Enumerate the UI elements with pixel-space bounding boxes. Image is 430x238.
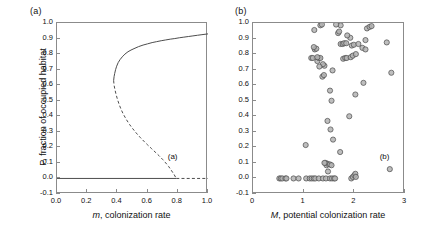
scatter-point (325, 118, 330, 123)
scatter-point (353, 174, 358, 179)
y-tick-mark (252, 38, 256, 39)
y-tick-mark (252, 131, 256, 132)
x-tick-label: 3 (392, 197, 416, 205)
scatter-point (369, 24, 374, 29)
scatter-point (329, 98, 334, 103)
y-tick-label: 0.8 (225, 49, 249, 57)
scatter-point (345, 33, 350, 38)
panel-b-xlabel-text: , potential colonization rate (278, 210, 385, 220)
scatter-point (296, 176, 301, 181)
scatter-point (356, 41, 361, 46)
x-tick-mark (207, 189, 208, 193)
y-tick-mark (56, 193, 60, 194)
y-tick-mark (252, 69, 256, 70)
y-tick-mark (56, 115, 60, 116)
scatter-point (344, 41, 349, 46)
x-tick-mark (404, 189, 405, 193)
x-tick-mark (56, 189, 57, 193)
panel-a-inner-annotation: (a) (168, 152, 178, 161)
y-tick-label: 0.2 (225, 142, 249, 150)
y-tick-label: -0.1 (225, 189, 249, 197)
scatter-point (330, 68, 335, 73)
scatter-point (332, 176, 337, 181)
x-tick-label: 2 (341, 197, 365, 205)
y-tick-label: 0.7 (29, 65, 53, 73)
scatter-point (363, 38, 368, 43)
y-tick-mark (56, 146, 60, 147)
scatter-point (311, 45, 316, 50)
y-tick-label: 0.6 (29, 80, 53, 88)
y-tick-label: 0.8 (29, 49, 53, 57)
y-tick-mark (56, 84, 60, 85)
y-tick-label: 0.1 (225, 158, 249, 166)
y-tick-label: 0.7 (225, 65, 249, 73)
panel-a-ylabel: P, fraction of occupied habitat (38, 22, 48, 192)
y-tick-label: 1.0 (29, 18, 53, 26)
scatter-point (312, 27, 317, 32)
x-tick-mark (252, 189, 253, 193)
x-tick-label: 0 (240, 197, 264, 205)
lower-unstable-branch (114, 81, 177, 179)
x-tick-mark (353, 189, 354, 193)
y-tick-label: -0.1 (29, 189, 53, 197)
scatter-point (322, 160, 327, 165)
panel-a-label: (a) (30, 6, 42, 16)
y-tick-label: 0.6 (225, 80, 249, 88)
panel-a-ylabel-wrap: P, fraction of occupied habitat (14, 22, 26, 193)
upper-stable-branch (114, 34, 208, 81)
y-tick-mark (252, 193, 256, 194)
y-tick-label: 0.5 (225, 96, 249, 104)
scatter-point (330, 137, 335, 142)
scatter-point (315, 55, 320, 60)
y-tick-mark (56, 38, 60, 39)
panel-a-xlabel-text: , colonization rate (100, 210, 171, 220)
y-tick-mark (252, 115, 256, 116)
x-tick-mark (303, 189, 304, 193)
y-tick-mark (56, 100, 60, 101)
y-tick-label: 0.1 (29, 158, 53, 166)
y-tick-label: 0.0 (225, 173, 249, 181)
scatter-point (363, 47, 368, 52)
y-tick-label: 0.0 (29, 173, 53, 181)
scatter-point (353, 92, 358, 97)
x-tick-mark (116, 189, 117, 193)
y-tick-label: 0.4 (29, 111, 53, 119)
y-tick-mark (252, 146, 256, 147)
panel-a-plot-area (56, 22, 207, 193)
scatter-point (325, 169, 330, 174)
panel-b-plot-area (252, 22, 404, 193)
scatter-point (291, 176, 296, 181)
scatter-point (353, 51, 358, 56)
scatter-point (317, 64, 322, 69)
y-tick-mark (56, 69, 60, 70)
x-tick-mark (177, 189, 178, 193)
y-tick-mark (252, 53, 256, 54)
y-tick-label: 0.9 (29, 34, 53, 42)
y-tick-label: 1.0 (225, 18, 249, 26)
y-tick-mark (252, 22, 256, 23)
scatter-point (389, 70, 394, 75)
scatter-point (329, 163, 334, 168)
scatter-point (361, 80, 366, 85)
scatter-point (338, 149, 343, 154)
x-tick-label: 0.6 (135, 197, 159, 205)
y-tick-label: 0.4 (225, 111, 249, 119)
y-tick-mark (56, 177, 60, 178)
scatter-point (319, 23, 324, 27)
scatter-point (328, 127, 333, 132)
scatter-point (337, 29, 342, 34)
y-tick-mark (56, 53, 60, 54)
y-tick-label: 0.5 (29, 96, 53, 104)
y-tick-mark (56, 131, 60, 132)
scatter-point (284, 176, 289, 181)
scatter-point (347, 114, 352, 119)
x-tick-label: 1 (291, 197, 315, 205)
scatter-point (327, 88, 332, 93)
y-tick-mark (56, 162, 60, 163)
y-tick-mark (252, 84, 256, 85)
panel-a-xlabel: m, colonization rate (56, 210, 207, 220)
figure-container: (a) P, fraction of occupied habitat -0.1… (0, 0, 430, 238)
y-tick-label: 0.3 (225, 127, 249, 135)
panel-a: (a) P, fraction of occupied habitat -0.1… (0, 0, 215, 238)
y-tick-mark (252, 100, 256, 101)
